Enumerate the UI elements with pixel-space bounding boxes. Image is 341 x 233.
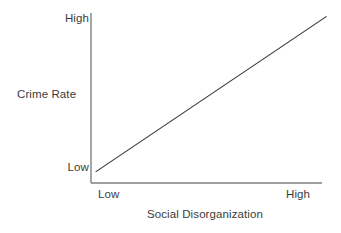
chart-figure: High Low Crime Rate Low High Social Diso…	[0, 0, 341, 233]
x-axis-tick-label-low: Low	[98, 188, 119, 201]
y-axis-tick-label-low: Low	[61, 161, 89, 174]
trend-line-series-0	[96, 16, 327, 172]
y-axis-tick-label-high: High	[61, 12, 89, 25]
y-axis-title: Crime Rate	[17, 88, 76, 101]
x-axis-tick-label-high: High	[286, 188, 310, 201]
x-axis-title: Social Disorganization	[147, 208, 263, 221]
screenshot-root: High Low Crime Rate Low High Social Diso…	[0, 0, 341, 233]
